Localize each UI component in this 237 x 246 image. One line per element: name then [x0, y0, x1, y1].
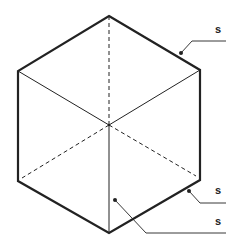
label-bottom-right-edge: s — [215, 184, 221, 196]
edge-upper-left-to-center — [18, 71, 109, 125]
hidden-edge-center-to-lower-right — [109, 125, 196, 176]
isometric-cube-diagram: s s s — [0, 0, 237, 246]
leader-bottom-right-edge: s — [187, 184, 226, 203]
edge-upper-right-to-center — [109, 70, 200, 125]
hidden-edge-center-to-lower-left — [22, 125, 109, 178]
leader-top-right-edge: s — [179, 23, 226, 55]
center-vertex-dot — [108, 124, 111, 127]
label-front-face: s — [215, 215, 221, 227]
label-top-right-edge: s — [215, 23, 221, 35]
